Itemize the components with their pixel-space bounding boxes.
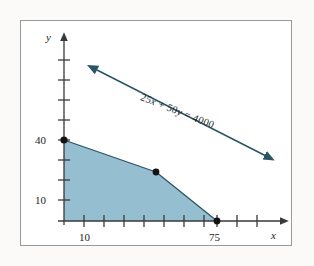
y-tick-label-40: 40	[35, 135, 46, 146]
figure-container: y x 40 10 10 75 25x + 50y = 4000	[0, 0, 314, 266]
feasible-region-fill	[64, 140, 217, 221]
y-tick-label-10: 10	[35, 195, 46, 206]
vertex-point-75-0	[214, 218, 221, 225]
vertex-point-mid	[153, 169, 160, 176]
x-tick-label-10: 10	[79, 232, 90, 243]
vertex-point-0-40	[60, 136, 67, 143]
x-axis-label: x	[271, 230, 276, 241]
y-axis-label: y	[46, 32, 51, 43]
x-tick-label-75: 75	[209, 232, 220, 243]
